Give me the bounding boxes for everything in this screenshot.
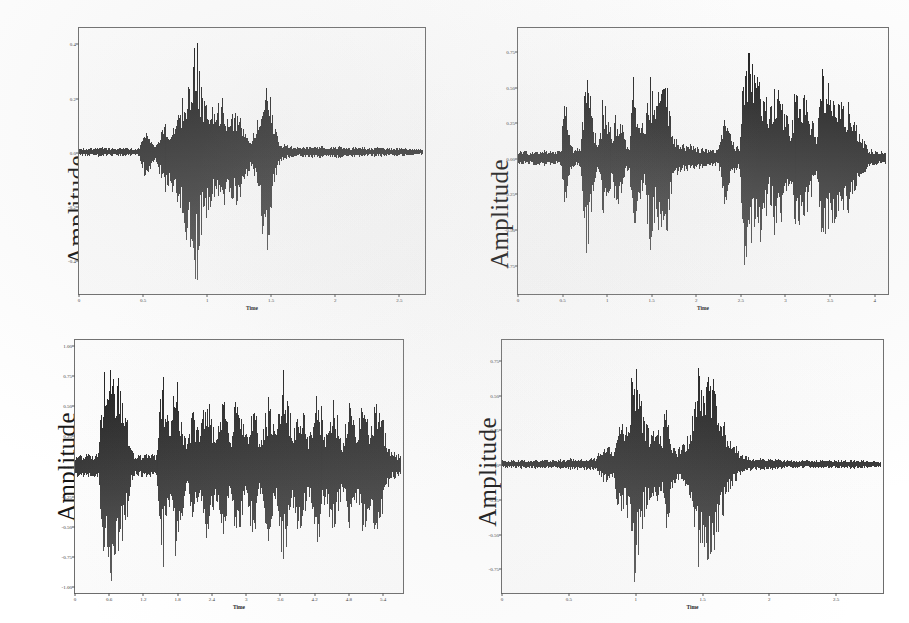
y-tick-label: 0.25 <box>506 121 515 126</box>
waveform-trace <box>502 340 883 593</box>
x-tick-mark <box>769 593 770 596</box>
y-tick-mark <box>515 229 518 230</box>
x-tick-label: 2.4 <box>209 597 215 602</box>
y-axis-label: Amplitude <box>486 159 514 269</box>
waveform-figure-grid: Amplitude 0.40.20.0-0.2-0.400.511.522.5T… <box>0 0 909 623</box>
x-tick-mark <box>75 593 76 596</box>
x-tick-label: 1.5 <box>649 298 655 303</box>
x-tick-label: 2.5 <box>738 298 744 303</box>
panel-top-right: Amplitude 0.750.500.250.00-0.25-0.50-0.7… <box>455 0 909 318</box>
x-tick-mark <box>607 294 608 297</box>
y-tick-mark <box>72 436 75 437</box>
x-axis-label: Time <box>697 305 709 311</box>
x-tick-label: 3 <box>245 597 248 602</box>
x-tick-label: 0.5 <box>140 298 146 303</box>
x-tick-label: 1 <box>206 298 209 303</box>
y-tick-mark <box>76 44 79 45</box>
y-tick-mark <box>499 430 502 431</box>
y-tick-label: -0.75 <box>62 554 72 559</box>
x-axis-label: Time <box>686 604 698 610</box>
x-tick-mark <box>314 593 315 596</box>
x-tick-label: 0.6 <box>106 597 112 602</box>
y-tick-label: 0.25 <box>63 434 72 439</box>
x-tick-mark <box>696 294 697 297</box>
x-tick-mark <box>280 593 281 596</box>
panel-bottom-right: Amplitude 0.750.500.250.00-0.25-0.50-0.7… <box>455 318 909 623</box>
x-tick-label: 3 <box>784 298 787 303</box>
x-tick-mark <box>830 294 831 297</box>
y-tick-label: -0.50 <box>505 227 515 232</box>
y-tick-mark <box>515 123 518 124</box>
y-tick-label: -0.50 <box>62 524 72 529</box>
x-tick-mark <box>207 294 208 297</box>
y-tick-label: -0.75 <box>489 567 499 572</box>
x-tick-label: 1 <box>606 298 609 303</box>
x-tick-mark <box>383 593 384 596</box>
x-tick-label: 4.8 <box>346 597 352 602</box>
y-tick-label: 0.00 <box>506 156 515 161</box>
plot-axes: 1.000.750.500.250.00-0.25-0.50-0.75-1.00… <box>74 339 404 594</box>
y-tick-mark <box>76 207 79 208</box>
waveform-trace <box>75 340 403 593</box>
x-tick-label: 1 <box>634 597 637 602</box>
plot-axes: 0.40.20.0-0.2-0.400.511.522.5Time <box>78 27 426 295</box>
x-tick-label: 3.6 <box>277 597 283 602</box>
x-tick-label: 2.5 <box>833 597 839 602</box>
x-tick-mark <box>785 294 786 297</box>
x-tick-mark <box>348 593 349 596</box>
x-tick-label: 0 <box>517 298 520 303</box>
x-tick-mark <box>651 294 652 297</box>
x-tick-mark <box>211 593 212 596</box>
x-tick-mark <box>874 294 875 297</box>
y-tick-label: 0.75 <box>490 358 499 363</box>
y-tick-mark <box>515 87 518 88</box>
x-tick-mark <box>836 593 837 596</box>
y-tick-label: 0.00 <box>490 463 499 468</box>
y-tick-label: -0.50 <box>489 532 499 537</box>
x-tick-label: 0.5 <box>566 597 572 602</box>
y-tick-label: 0.75 <box>506 50 515 55</box>
y-tick-mark <box>515 194 518 195</box>
y-tick-mark <box>499 499 502 500</box>
x-tick-label: 2 <box>334 298 337 303</box>
x-tick-mark <box>399 294 400 297</box>
x-tick-label: 1.2 <box>140 597 146 602</box>
y-tick-mark <box>72 376 75 377</box>
y-tick-label: 0.25 <box>490 428 499 433</box>
y-tick-label: 1.00 <box>63 344 72 349</box>
y-tick-mark <box>72 586 75 587</box>
x-tick-label: 0 <box>74 597 77 602</box>
y-tick-mark <box>72 526 75 527</box>
x-tick-mark <box>271 294 272 297</box>
y-tick-mark <box>515 265 518 266</box>
y-tick-mark <box>76 261 79 262</box>
x-tick-mark <box>518 294 519 297</box>
plot-axes: 0.750.500.250.00-0.25-0.50-0.7500.511.52… <box>517 27 889 295</box>
y-tick-mark <box>515 52 518 53</box>
y-tick-label: 0.50 <box>490 393 499 398</box>
x-tick-mark <box>502 593 503 596</box>
x-tick-mark <box>143 294 144 297</box>
panel-top-left: Amplitude 0.40.20.0-0.2-0.400.511.522.5T… <box>0 0 455 318</box>
x-tick-mark <box>177 593 178 596</box>
x-tick-mark <box>702 593 703 596</box>
waveform-trace <box>79 28 425 294</box>
y-tick-mark <box>515 158 518 159</box>
x-tick-mark <box>143 593 144 596</box>
y-tick-label: -1.00 <box>62 584 72 589</box>
y-tick-mark <box>499 465 502 466</box>
y-tick-label: 0.50 <box>63 404 72 409</box>
y-tick-mark <box>72 556 75 557</box>
x-tick-mark <box>246 593 247 596</box>
x-tick-mark <box>335 294 336 297</box>
x-tick-mark <box>635 593 636 596</box>
x-tick-label: 2 <box>768 597 771 602</box>
x-tick-label: 5.4 <box>380 597 386 602</box>
y-tick-label: 0.4 <box>70 42 76 47</box>
y-tick-label: -0.4 <box>68 259 76 264</box>
y-tick-label: 0.00 <box>63 464 72 469</box>
x-tick-mark <box>562 294 563 297</box>
x-tick-label: 1.8 <box>175 597 181 602</box>
x-tick-label: 2 <box>695 298 698 303</box>
x-axis-label: Time <box>246 305 258 311</box>
